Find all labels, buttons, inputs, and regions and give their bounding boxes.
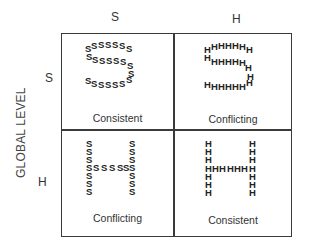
svg-text:S: S [126,43,132,54]
svg-text:S: S [99,55,105,66]
svg-text:H: H [205,187,212,198]
svg-text:H: H [249,187,256,198]
svg-text:S: S [91,78,97,89]
svg-text:S: S [98,79,104,90]
svg-text:S: S [98,39,104,50]
svg-text:H: H [234,163,241,174]
cell-caption: Conflicting [62,212,173,224]
compound-letter-s-of-s: SSSSSSS SSSSSSS S SSSSSSS [62,34,173,112]
cell-global-h-local-s: SS SS SS SSSSSSS SS SS SS Conflicting [62,130,173,238]
svg-text:H: H [219,163,226,174]
compound-letter-s-of-h: HHHHHHH HHHHHHH H HHHHHHH [173,34,293,112]
svg-text:S: S [101,162,107,173]
svg-text:H: H [246,77,253,88]
svg-text:H: H [211,41,218,52]
svg-text:H: H [218,40,225,51]
svg-text:H: H [211,81,218,92]
svg-text:S: S [92,54,98,65]
svg-text:S: S [129,186,135,197]
svg-text:H: H [225,40,232,51]
svg-text:H: H [246,44,253,55]
svg-text:H: H [232,56,239,67]
svg-text:H: H [212,163,219,174]
svg-text:H: H [239,41,246,52]
row-header-s: S [45,71,53,85]
svg-text:S: S [86,186,92,197]
y-axis-label: GLOBAL LEVEL [14,92,28,178]
row-header-h: H [38,175,47,189]
stimulus-grid: SSSSSSS SSSSSSS S SSSSSSS Consistent HHH… [61,33,292,237]
svg-text:H: H [225,81,232,92]
column-header-s: S [111,10,119,24]
svg-text:S: S [105,39,111,50]
svg-text:H: H [225,56,232,67]
svg-text:H: H [218,81,225,92]
compound-letter-h-of-s: SS SS SS SSSSSSS SS SS SS [62,130,173,210]
cell-caption: Consistent [62,112,173,124]
svg-text:H: H [218,56,225,67]
svg-text:H: H [232,81,239,92]
svg-text:H: H [239,81,246,92]
svg-text:H: H [227,163,234,174]
svg-text:H: H [204,52,211,63]
svg-text:S: S [105,79,111,90]
svg-text:H: H [211,56,218,67]
svg-text:S: S [112,79,118,90]
svg-text:S: S [120,56,126,67]
svg-text:S: S [109,162,115,173]
svg-text:S: S [91,40,97,51]
svg-text:H: H [232,40,239,51]
svg-text:S: S [93,162,99,173]
svg-text:S: S [119,78,125,89]
svg-text:S: S [113,55,119,66]
svg-text:H: H [204,79,211,90]
svg-text:S: S [112,39,118,50]
svg-text:S: S [126,74,132,85]
cell-global-h-local-h: HH HH HH HHHHHHH HH HH HH Consistent [173,130,293,238]
cell-global-s-local-h: HHHHHHH HHHHHHH H HHHHHHH Conflicting [173,34,293,129]
cell-global-s-local-s: SSSSSSS SSSSSSS S SSSSSSS Consistent [62,34,173,129]
svg-text:H: H [241,163,248,174]
cell-caption: Conflicting [173,113,293,125]
compound-letter-h-of-h: HH HH HH HHHHHHH HH HH HH [173,130,293,210]
svg-text:S: S [119,40,125,51]
cell-caption: Consistent [173,214,293,226]
svg-text:S: S [106,55,112,66]
column-header-h: H [232,12,241,26]
